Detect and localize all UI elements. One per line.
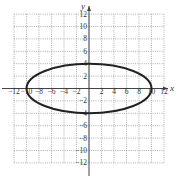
y-tick-label: 10 — [80, 22, 88, 31]
y-axis-label: y — [80, 1, 85, 11]
x-tick-label: 4 — [112, 87, 116, 96]
y-tick-label: −2 — [79, 96, 87, 105]
x-tick-label: 6 — [125, 87, 129, 96]
x-tick-label: −6 — [48, 87, 56, 96]
x-axis-label: x — [169, 83, 174, 93]
y-axis-arrow-icon — [87, 6, 91, 11]
y-tick-label: 2 — [83, 72, 87, 81]
y-tick-label: 6 — [83, 47, 87, 56]
x-tick-label: 2 — [100, 87, 104, 96]
y-tick-label: −12 — [75, 158, 87, 167]
y-tick-label: −10 — [75, 146, 87, 155]
ellipse-graph: −12−10−8−6−4−22468101212108642−2−4−6−8−1… — [0, 0, 178, 177]
y-tick-label: 8 — [83, 34, 87, 43]
x-tick-label: −4 — [60, 87, 68, 96]
y-tick-label: −8 — [79, 134, 87, 143]
x-tick-label: −8 — [35, 87, 43, 96]
x-tick-label: −12 — [8, 87, 20, 96]
y-tick-label: −6 — [79, 121, 87, 130]
x-tick-label: 12 — [160, 87, 168, 96]
x-tick-label: 8 — [137, 87, 141, 96]
x-tick-label: −2 — [73, 87, 81, 96]
